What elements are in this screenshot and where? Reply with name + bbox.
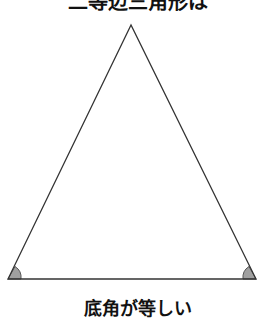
triangle-diagram bbox=[0, 0, 276, 330]
isosceles-triangle bbox=[8, 25, 256, 279]
base-left-angle-mark bbox=[8, 267, 21, 280]
base-right-angle-mark bbox=[243, 267, 256, 280]
diagram-caption: 底角が等しい bbox=[0, 294, 276, 320]
